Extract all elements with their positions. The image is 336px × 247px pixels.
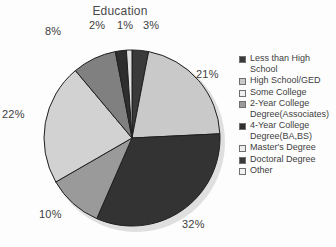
slice-label-highschool: 21% — [196, 68, 219, 80]
legend-item[interactable]: 2-Year College Degree(Associates) — [239, 98, 336, 119]
slice-label-other: 1% — [117, 19, 133, 31]
legend-item[interactable]: Less than High School — [239, 53, 336, 74]
legend-swatch-icon — [239, 123, 246, 130]
legend-item[interactable]: Doctoral Degree — [239, 154, 336, 165]
legend-swatch-icon — [239, 157, 246, 164]
slice-label-twoyear: 10% — [39, 208, 62, 220]
legend-item-label: 2-Year College Degree(Associates) — [250, 98, 336, 119]
legend-swatch-icon — [239, 56, 246, 63]
legend-swatch-icon — [239, 168, 246, 175]
slice-label-lessthanhs: 3% — [143, 19, 159, 31]
pie-svg — [0, 14, 240, 247]
pie-plot-area: 8% 2% 1% 3% 21% 32% 10% 22% — [0, 14, 240, 247]
legend-item-label: Doctoral Degree — [250, 154, 316, 165]
legend-swatch-icon — [239, 78, 246, 85]
chart-legend: Less than High SchoolHigh School/GEDSome… — [239, 53, 336, 177]
slice-label-fouryear: 22% — [2, 108, 25, 120]
legend-item[interactable]: 4-Year College Degree(BA,BS) — [239, 120, 336, 141]
slice-label-doctoral: 2% — [89, 19, 105, 31]
legend-swatch-icon — [239, 101, 246, 108]
legend-item-label: Some College — [250, 87, 307, 98]
legend-item[interactable]: Other — [239, 165, 336, 176]
legend-item[interactable]: Master's Degree — [239, 142, 336, 153]
legend-swatch-icon — [239, 90, 246, 97]
slice-label-somecollege: 32% — [182, 218, 205, 230]
legend-item-label: 4-Year College Degree(BA,BS) — [250, 120, 336, 141]
legend-item[interactable]: High School/GED — [239, 75, 336, 86]
pie-slices-group — [44, 50, 220, 226]
legend-item-label: Less than High School — [250, 53, 336, 74]
pie-chart-figure: Education 8% 2% 1% 3% 21% 32% 10% 22% Le… — [0, 0, 336, 247]
legend-item-label: Master's Degree — [250, 142, 316, 153]
legend-item[interactable]: Some College — [239, 87, 336, 98]
legend-swatch-icon — [239, 145, 246, 152]
legend-item-label: High School/GED — [250, 75, 321, 86]
slice-label-masters: 8% — [45, 25, 61, 37]
legend-item-label: Other — [250, 165, 273, 176]
